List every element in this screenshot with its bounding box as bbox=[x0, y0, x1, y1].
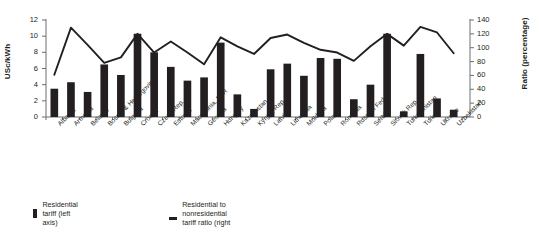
legend-line-swatch-icon bbox=[169, 217, 177, 220]
legend-item-bar: Residential tariff (left axis) bbox=[33, 200, 83, 227]
legend-bar-swatch-icon bbox=[33, 209, 37, 218]
chart-container: USc/kWh Ratio (percentage) 024681012 020… bbox=[0, 0, 536, 229]
line-series bbox=[54, 27, 453, 75]
bar-series bbox=[50, 34, 457, 117]
bar-SlovakRep bbox=[383, 34, 391, 117]
legend-line-label: Residential to nonresidential tariff rat… bbox=[182, 200, 241, 229]
ratio-line bbox=[54, 27, 453, 75]
bar-Albania bbox=[50, 89, 58, 117]
legend-bar-label: Residential tariff (left axis) bbox=[42, 200, 82, 227]
bar-Croatia bbox=[134, 34, 142, 117]
legend-item-line: Residential to nonresidential tariff rat… bbox=[169, 200, 241, 229]
